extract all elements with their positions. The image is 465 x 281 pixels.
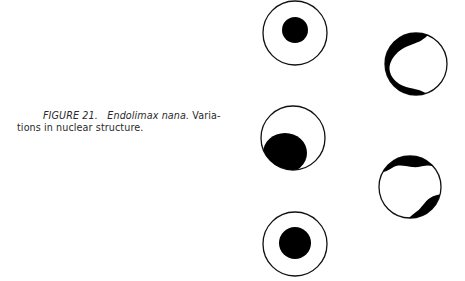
nucleus-3	[261, 106, 325, 173]
nucleus-1	[263, 1, 327, 65]
nucleus-5	[263, 212, 327, 276]
nuclei-figure	[0, 0, 465, 281]
nucleus-2	[370, 33, 447, 100]
nucleus-4	[370, 150, 450, 222]
